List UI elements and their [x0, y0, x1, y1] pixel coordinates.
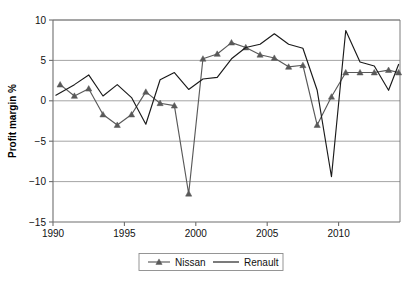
profit-margin-line-chart: 1050−5−10−1519901995200020052010Profit m… [0, 0, 417, 285]
y-tick-label-3: −5 [35, 136, 47, 147]
y-tick-label-5: −15 [29, 217, 46, 228]
legend-label-renault: Renault [244, 257, 279, 268]
x-tick-label-1: 1995 [113, 228, 136, 239]
y-tick-label-1: 5 [40, 55, 46, 66]
x-tick-label-0: 1990 [42, 228, 65, 239]
legend-label-nissan: Nissan [175, 257, 206, 268]
plot-background [53, 20, 400, 222]
y-tick-label-2: 0 [40, 95, 46, 106]
y-tick-label-0: 10 [35, 15, 47, 26]
y-tick-label-4: −10 [29, 176, 46, 187]
x-tick-label-4: 2010 [327, 228, 350, 239]
y-axis-title: Profit margin % [7, 84, 18, 158]
x-tick-label-3: 2005 [256, 228, 279, 239]
x-tick-label-2: 2000 [185, 228, 208, 239]
chart-canvas: 1050−5−10−1519901995200020052010Profit m… [0, 0, 417, 285]
